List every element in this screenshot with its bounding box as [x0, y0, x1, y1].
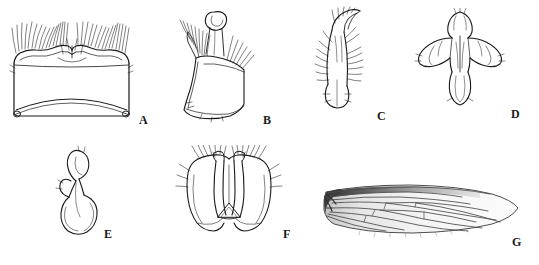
panel-a-tergite [6, 8, 136, 126]
panel-label-d: D [511, 108, 520, 120]
panel-label-a: A [139, 114, 148, 126]
panel-c-gonostylus [310, 6, 384, 118]
panel-label-e: E [104, 228, 112, 240]
figure-plate: A [0, 0, 539, 265]
panel-g-wing [320, 178, 525, 240]
panel-label-c: C [377, 110, 386, 122]
panel-d-aedeagal-complex [412, 8, 508, 118]
panel-b-gonocoxite [168, 6, 268, 124]
panel-label-b: B [263, 114, 271, 126]
panel-label-f: F [283, 228, 290, 240]
panel-f-hypopygium [164, 145, 294, 245]
panel-label-g: G [512, 236, 521, 248]
